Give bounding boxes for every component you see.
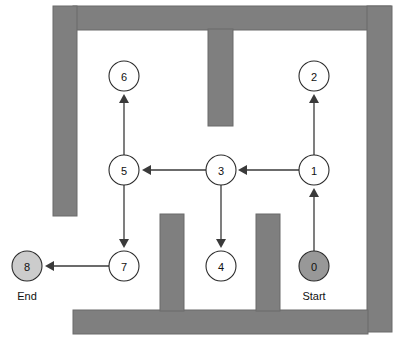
node-8-label: 8	[24, 261, 30, 273]
node-2[interactable]: 2	[299, 61, 329, 91]
node-1[interactable]: 1	[299, 155, 329, 185]
node-3[interactable]: 3	[206, 155, 236, 185]
node-0[interactable]: 0	[299, 251, 329, 281]
edge-5-6-arrowhead-icon	[119, 94, 129, 103]
edge-1-2	[309, 94, 319, 155]
wall-left	[53, 6, 77, 216]
edge-5-6	[119, 94, 129, 155]
edge-3-4	[216, 185, 226, 248]
edge-1-3	[238, 165, 299, 175]
node-0-label: 0	[311, 261, 317, 273]
node-4-label: 4	[218, 261, 224, 273]
edge-5-7	[119, 185, 129, 248]
edge-3-4-arrowhead-icon	[216, 239, 226, 248]
maze-diagram-canvas: 012345678 StartEnd	[0, 0, 397, 345]
wall-top-interior-vertical	[208, 29, 233, 126]
node-7[interactable]: 7	[109, 251, 139, 281]
edge-3-5	[142, 165, 206, 175]
node-8[interactable]: 8	[12, 251, 42, 281]
edge-1-3-arrowhead-icon	[238, 165, 247, 175]
edge-7-8-arrowhead-icon	[45, 261, 54, 271]
wall-right	[367, 6, 392, 332]
wall-bottom-interior-left	[160, 214, 184, 311]
node-1-label: 1	[311, 165, 317, 177]
wall-bottom-interior-right	[256, 214, 280, 311]
edge-3-5-arrowhead-icon	[142, 165, 151, 175]
edge-1-2-arrowhead-icon	[309, 94, 319, 103]
wall-top	[73, 6, 391, 30]
edge-7-8	[45, 261, 109, 271]
node-3-label: 3	[218, 165, 224, 177]
node-8-caption: End	[17, 290, 37, 302]
node-0-caption: Start	[302, 290, 325, 302]
edge-0-1-arrowhead-icon	[309, 188, 319, 197]
edge-5-7-arrowhead-icon	[119, 239, 129, 248]
node-2-label: 2	[311, 71, 317, 83]
edge-0-1	[309, 188, 319, 251]
node-5-label: 5	[121, 165, 127, 177]
node-4[interactable]: 4	[206, 251, 236, 281]
maze-diagram-svg: 012345678 StartEnd	[0, 0, 397, 345]
node-6-label: 6	[121, 71, 127, 83]
node-5[interactable]: 5	[109, 155, 139, 185]
node-6[interactable]: 6	[109, 61, 139, 91]
node-7-label: 7	[121, 261, 127, 273]
wall-bottom	[73, 310, 368, 334]
